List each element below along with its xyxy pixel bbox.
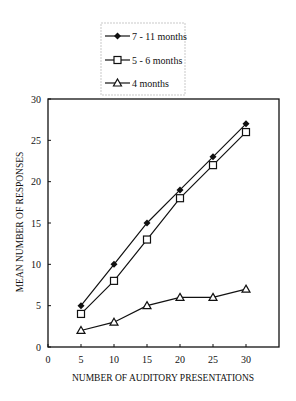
x-tick-label: 0: [46, 354, 51, 365]
legend-label: 7 - 11 months: [132, 31, 187, 42]
x-tick-label: 15: [142, 354, 152, 365]
open-square-icon: [114, 57, 121, 64]
series-group: [77, 120, 250, 333]
series-7-11-months: [78, 120, 250, 309]
x-axis-label: NUMBER OF AUDITORY PRESENTATIONS: [72, 373, 254, 383]
data-point: [177, 195, 184, 202]
legend-label: 4 months: [132, 78, 169, 89]
data-point: [144, 236, 151, 243]
legend: 7 - 11 months 5 - 6 months 4 months: [101, 23, 187, 95]
y-tick-label: 30: [31, 94, 41, 105]
x-tick-label: 5: [79, 354, 84, 365]
plot-area: [48, 99, 279, 347]
data-point: [243, 129, 250, 136]
x-tick-label: 30: [241, 354, 251, 365]
series-5-6-months: [78, 129, 250, 318]
line-chart: 7 - 11 months 5 - 6 months 4 months 0510…: [0, 0, 296, 401]
y-tick-label: 0: [36, 342, 41, 353]
y-tick-label: 5: [36, 300, 41, 311]
data-point: [78, 310, 85, 317]
x-tick-label: 10: [109, 354, 119, 365]
y-tick-label: 20: [31, 176, 41, 187]
data-point: [110, 318, 118, 325]
y-tick-label: 10: [31, 259, 41, 270]
x-tick-label: 25: [208, 354, 218, 365]
y-tick-label: 15: [31, 218, 41, 229]
data-point: [210, 162, 217, 169]
data-point: [242, 285, 250, 292]
legend-label: 5 - 6 months: [132, 55, 182, 66]
x-tick-label: 20: [175, 354, 185, 365]
y-tick-label: 25: [31, 135, 41, 146]
y-axis-label: MEAN NUMBER OF RESPONSES: [15, 152, 25, 293]
data-point: [111, 277, 118, 284]
legend-item-5-6-months: 5 - 6 months: [105, 55, 182, 66]
